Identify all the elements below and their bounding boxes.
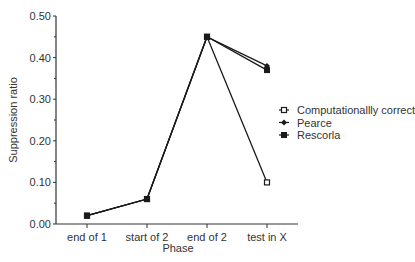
legend-entry: Rescorla [297, 129, 341, 141]
filled-square-marker [144, 196, 150, 202]
y-axis-label: Suppression ratio [7, 77, 19, 163]
legend-entry: Pearce [297, 117, 332, 129]
y-tick-label: 0.40 [30, 52, 51, 64]
filled-square-marker [84, 213, 90, 219]
legend-entry: Computationallly correct [297, 104, 415, 116]
x-axis-label: Phase [162, 242, 193, 254]
series-line [87, 37, 267, 216]
series-lines [84, 34, 270, 219]
y-tick-label: 0.00 [30, 218, 51, 230]
x-tick-label: end of 1 [67, 231, 107, 243]
axes: 0.000.100.200.300.400.50end of 1start of… [30, 10, 298, 243]
y-tick-label: 0.30 [30, 93, 51, 105]
filled-square-marker [264, 67, 270, 73]
open-square-marker [265, 180, 270, 185]
x-tick-label: test in X [247, 231, 287, 243]
filled-square-marker [281, 132, 287, 138]
legend: Computationallly correctPearceRescorla [279, 104, 415, 141]
filled-square-marker [204, 34, 210, 40]
diamond-marker [281, 120, 287, 126]
open-square-marker [282, 108, 287, 113]
y-tick-label: 0.20 [30, 135, 51, 147]
series-line [87, 37, 267, 216]
y-tick-label: 0.10 [30, 176, 51, 188]
y-tick-label: 0.50 [30, 10, 51, 22]
series-line [87, 37, 267, 216]
line-chart: 0.000.100.200.300.400.50end of 1start of… [0, 0, 415, 262]
